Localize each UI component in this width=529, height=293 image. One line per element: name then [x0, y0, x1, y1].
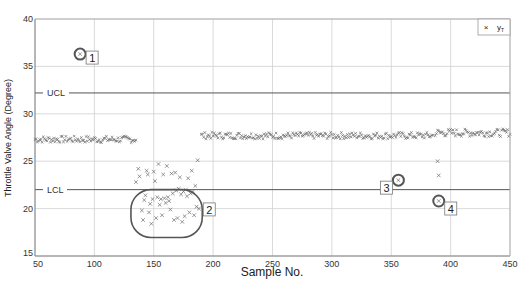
x-tick-label: 150 [146, 259, 161, 269]
x-tick-label: 200 [206, 259, 221, 269]
y-tick-label: 40 [23, 14, 33, 24]
y-tick-label: 25 [23, 156, 33, 166]
x-tick-label: 400 [443, 259, 458, 269]
x-tick-label: 450 [502, 259, 517, 269]
annotation-label-3: 3 [383, 182, 389, 194]
y-tick-label: 35 [23, 61, 33, 71]
lcl-label: LCL [47, 185, 64, 195]
y-tick-labels: 152025303540 [23, 14, 33, 258]
ucl-label: UCL [47, 88, 65, 98]
y-axis-label: Throttle Valve Angle (Degree) [3, 79, 13, 197]
annotation-label-1: 1 [89, 52, 95, 64]
y-tick-label: 20 [23, 204, 33, 214]
x-axis-label: Sample No. [241, 265, 304, 279]
y-tick-label: 30 [23, 109, 33, 119]
legend: × yT [478, 19, 510, 35]
annotation-label-2: 2 [206, 204, 212, 216]
x-tick-label: 350 [384, 259, 399, 269]
legend-marker-icon: × [484, 23, 489, 32]
control-chart: UCL LCL 1 2 3 4 501001502002503003504004… [0, 0, 529, 293]
x-tick-label: 50 [33, 259, 43, 269]
x-tick-label: 300 [324, 259, 339, 269]
y-tick-label: 15 [23, 248, 33, 258]
x-tick-label: 100 [87, 259, 102, 269]
annotation-label-4: 4 [448, 203, 454, 215]
